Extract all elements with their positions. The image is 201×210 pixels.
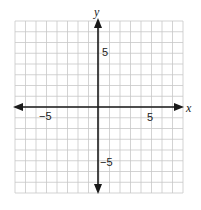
x-axis-label: x xyxy=(185,101,192,115)
y-axis-up-arrow-icon xyxy=(94,18,102,28)
y-tick-label-pos5: 5 xyxy=(102,46,108,58)
x-axis-left-arrow-icon xyxy=(13,103,23,111)
coordinate-plane: x y −5 5 5 −5 xyxy=(0,0,201,210)
y-axis-label: y xyxy=(93,5,100,19)
y-axis-down-arrow-icon xyxy=(94,184,102,194)
x-tick-label-pos5: 5 xyxy=(147,111,153,123)
y-tick-label-neg5: −5 xyxy=(100,156,113,168)
x-tick-label-neg5: −5 xyxy=(39,110,52,122)
x-axis-right-arrow-icon xyxy=(174,103,184,111)
